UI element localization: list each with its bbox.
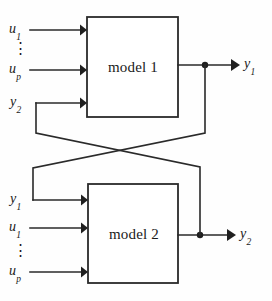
model-2-label: model 2 [102,226,166,243]
input-label-up-top: up [9,62,21,76]
input-label-up-top-sub: p [16,72,21,82]
output-label-y2-sub: 2 [247,237,252,247]
input-label-up-bottom-sub: p [16,274,21,284]
input-label-u1-bottom-sub: 1 [16,230,21,240]
block-diagram-canvas: model 1 model 2 u1 ⋮ up y2 y1 y1 u1 ⋮ up… [0,0,272,301]
arrowhead-y1-output [231,59,240,71]
output-label-y2-base: y [240,226,246,241]
input-label-up-bottom-base: u [9,263,16,278]
model-1-label: model 1 [101,59,165,76]
diagram-vector-layer [0,0,272,301]
arrowhead-y2-output [227,229,236,241]
ellipsis-bottom-inputs: ⋮ [13,243,28,258]
input-label-u1-bottom: u1 [9,220,21,234]
arrowhead-u1-model-1 [80,25,87,36]
input-label-y1-base: y [10,191,16,206]
input-label-u1-top: u1 [9,22,21,36]
input-label-y1-model-2: y1 [10,192,21,206]
output-label-y2: y2 [240,227,251,241]
input-label-u1-top-base: u [9,21,16,36]
input-label-y2-sub: 2 [17,105,22,115]
input-label-y2-model-1: y2 [10,95,21,109]
input-label-y2-base: y [10,94,16,109]
ellipsis-top-inputs: ⋮ [13,41,28,56]
input-label-up-bottom: up [9,264,21,278]
arrowhead-u1-model-2 [81,223,88,234]
output-label-y1-base: y [244,56,250,71]
input-label-up-top-base: u [9,61,16,76]
arrowhead-up-model-1 [80,65,87,76]
input-label-u1-bottom-base: u [9,219,16,234]
arrowhead-y1-model-2 [81,195,88,206]
arrowhead-y2-model-1 [80,98,87,109]
output-label-y1-sub: 1 [251,67,256,77]
output-label-y1: y1 [244,57,255,71]
arrowhead-up-model-2 [81,267,88,278]
input-label-y1-sub: 1 [17,202,22,212]
